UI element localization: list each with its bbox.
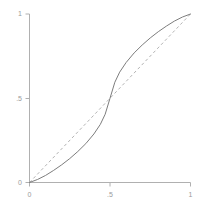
plot-canvas (0, 0, 209, 208)
y-axis-label-0: 0 (8, 179, 22, 186)
y-axis-label-half: .5 (8, 95, 22, 102)
x-axis-label-1: 1 (184, 191, 197, 198)
x-axis-label-half: .5 (103, 191, 117, 198)
y-axis-label-1: 1 (8, 10, 22, 17)
data-group (30, 14, 191, 183)
x-axis-label-0: 0 (23, 191, 36, 198)
chart-figure: 1 .5 0 0 .5 1 (0, 0, 209, 208)
